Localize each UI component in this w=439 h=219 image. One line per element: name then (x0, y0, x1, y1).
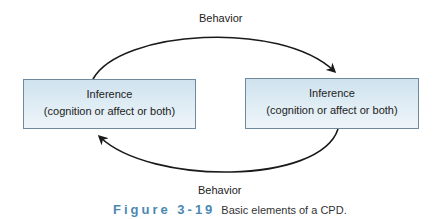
caption-text: Basic elements of a CPD. (221, 204, 346, 216)
inference-subtitle: (cognition or affect or both) (24, 103, 195, 120)
inference-title: Inference (24, 86, 195, 103)
inference-subtitle: (cognition or affect or both) (246, 102, 418, 119)
inference-box-right: Inference (cognition or affect or both) (245, 78, 419, 129)
figure-caption: Figure 3-19Basic elements of a CPD. (113, 200, 347, 218)
bottom-behavior-arrow (100, 129, 338, 172)
bottom-arrow-label: Behavior (198, 184, 241, 196)
inference-title: Inference (246, 85, 418, 102)
top-behavior-arrow (93, 37, 334, 79)
figure-number: Figure 3-19 (113, 202, 215, 217)
inference-box-left: Inference (cognition or affect or both) (23, 79, 196, 129)
top-arrow-label: Behavior (199, 12, 242, 24)
